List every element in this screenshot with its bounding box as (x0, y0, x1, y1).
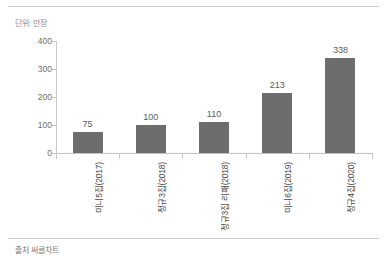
x-tick-mark (119, 154, 120, 159)
x-category-label: 미니5집(2017) (92, 162, 104, 213)
bar-value-label: 338 (333, 45, 348, 55)
x-axis-line (56, 153, 373, 154)
bar (73, 132, 103, 153)
bar-value-label: 75 (83, 119, 93, 129)
x-category-label: 미니6집(2019) (281, 162, 293, 213)
bar-value-label: 213 (270, 80, 285, 90)
source-label: 출처 써클차트 (15, 244, 59, 255)
bar (199, 122, 229, 153)
bar (136, 125, 166, 153)
top-divider (8, 6, 379, 7)
bar (262, 93, 292, 153)
y-tick-label: 300 (38, 64, 52, 74)
bar (325, 58, 355, 153)
x-tick-mark (182, 154, 183, 159)
unit-label: 단위: 만장 (15, 17, 47, 28)
plot-area: 75100110213338 (56, 41, 372, 153)
chart-figure: 단위: 만장 0100200300400 75100110213338 미니5집… (0, 0, 387, 270)
x-tick-mark (56, 154, 57, 159)
bar-value-label: 100 (143, 112, 158, 122)
x-category-label: 정규4집(2020) (344, 162, 356, 213)
x-category-label: 정규3집 리패(2018) (218, 162, 230, 231)
x-tick-mark (372, 154, 373, 159)
y-tick-label: 100 (38, 120, 52, 130)
bar-value-label: 110 (207, 109, 221, 119)
y-axis-ticks: 0100200300400 (22, 41, 52, 154)
x-category-label: 정규3집(2018) (155, 162, 167, 213)
y-tick-label: 400 (38, 36, 52, 46)
y-tick-label: 200 (38, 92, 52, 102)
x-tick-mark (246, 154, 247, 159)
x-tick-mark (309, 154, 310, 159)
bottom-divider (8, 238, 379, 239)
